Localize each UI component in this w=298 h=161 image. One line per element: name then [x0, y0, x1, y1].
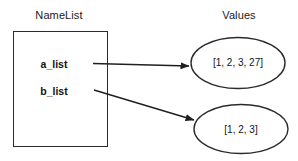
- value-text-1: [1, 2, 3, 27]: [191, 57, 285, 68]
- value-text-2: [1, 2, 3]: [194, 124, 288, 135]
- connector-layer: [0, 0, 298, 161]
- arrow-b-list-to-value-2: [94, 90, 194, 120]
- diagram-canvas: NameList Values a_list b_list [1, 2, 3, …: [0, 0, 298, 161]
- arrow-a-list-to-value-1: [93, 64, 189, 67]
